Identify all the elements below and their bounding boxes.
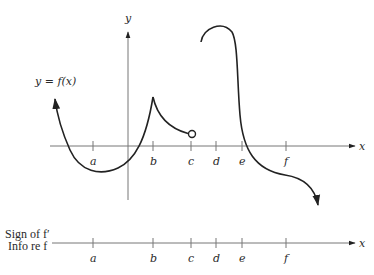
curve-label: y = f(x) [34, 75, 76, 88]
tick-label-a: a [90, 155, 97, 168]
sign-line-label-2: Info re f [8, 239, 47, 253]
sign-tick-a: a [90, 252, 97, 265]
x-axis-label: x [359, 140, 366, 153]
curve-branch-b-to-c [153, 97, 188, 134]
tick-label-c: c [188, 155, 194, 168]
tick-label-e: e [239, 155, 246, 168]
sign-line-tick-labels: a b c d e f [90, 252, 290, 265]
tick-label-f: f [283, 155, 290, 168]
sign-tick-f: f [283, 252, 290, 265]
sign-tick-b: b [150, 252, 157, 265]
sign-tick-d: d [213, 252, 220, 265]
curve-branch-left [55, 97, 153, 172]
curve-branch-right [201, 26, 318, 205]
function-graph-figure: y x a b c d e f y = f(x) Sign of f′ Info… [0, 0, 374, 275]
x-tick-labels: a b c d e f [90, 155, 290, 168]
tick-label-d: d [213, 155, 220, 168]
open-circle-at-c [189, 131, 196, 138]
y-axis-label: y [124, 12, 132, 25]
sign-tick-c: c [188, 252, 194, 265]
sign-line-x-label: x [359, 237, 366, 250]
sign-tick-e: e [239, 252, 246, 265]
tick-label-b: b [150, 155, 157, 168]
